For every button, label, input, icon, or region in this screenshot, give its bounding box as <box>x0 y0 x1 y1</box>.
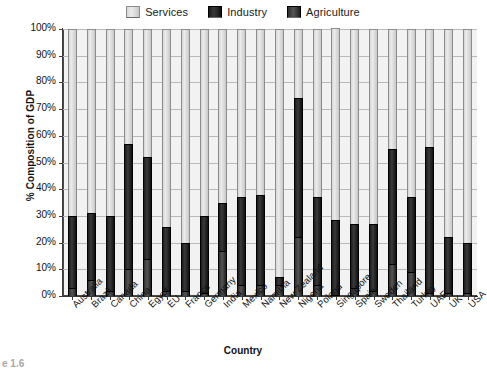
bar-usa[interactable] <box>463 29 472 296</box>
bar-segment-ind <box>388 149 397 264</box>
bar-segment-ind <box>124 144 133 269</box>
industry-swatch-icon <box>208 6 222 18</box>
bar-segment-serv <box>463 29 472 243</box>
bar-segment-serv <box>331 28 340 220</box>
legend-label-services: Services <box>145 6 188 18</box>
y-tick-label: 100% <box>16 22 56 33</box>
y-tick-label: 10% <box>16 262 56 273</box>
y-tick-mark <box>59 163 63 164</box>
bar-poland[interactable] <box>313 29 322 296</box>
bar-turkey[interactable] <box>407 29 416 296</box>
bar-eu[interactable] <box>162 29 171 296</box>
bar-segment-serv <box>87 29 96 213</box>
bar-segment-serv <box>200 29 209 216</box>
chart-legend: Services Industry Agriculture <box>0 2 486 22</box>
bar-segment-serv <box>106 29 115 216</box>
agriculture-swatch-icon <box>287 6 301 18</box>
y-tick-mark <box>59 109 63 110</box>
bar-segment-ind <box>294 98 303 237</box>
bar-segment-serv <box>162 29 171 227</box>
bar-segment-ind <box>87 213 96 280</box>
bar-germany[interactable] <box>200 29 209 296</box>
services-swatch-icon <box>126 6 140 18</box>
plot-area <box>63 29 477 296</box>
bar-china[interactable] <box>124 29 133 296</box>
bar-france[interactable] <box>181 29 190 296</box>
bar-segment-ind <box>143 157 152 258</box>
bar-new-zealand[interactable] <box>275 29 284 296</box>
bar-segment-serv <box>425 29 434 146</box>
bar-egypt[interactable] <box>143 29 152 296</box>
bar-segment-serv <box>313 29 322 197</box>
bar-namibia[interactable] <box>256 29 265 296</box>
bar-segment-ind <box>425 147 434 294</box>
legend-item-industry: Industry <box>208 6 267 18</box>
y-tick-label: 30% <box>16 209 56 220</box>
legend-item-agriculture: Agriculture <box>287 6 360 18</box>
bar-segment-ind <box>218 203 227 251</box>
legend-label-agriculture: Agriculture <box>306 6 360 18</box>
y-tick-label: 50% <box>16 156 56 167</box>
bar-group <box>63 29 477 296</box>
bar-segment-serv <box>143 29 152 157</box>
bar-segment-serv <box>294 29 303 98</box>
bar-singapore[interactable] <box>331 28 340 296</box>
bar-nigeria[interactable] <box>294 29 303 296</box>
bar-segment-serv <box>444 29 453 237</box>
y-tick-mark <box>59 82 63 83</box>
y-tick-label: 70% <box>16 102 56 113</box>
bar-segment-ind <box>237 197 246 285</box>
bar-australia[interactable] <box>68 29 77 296</box>
bar-segment-ind <box>68 216 77 288</box>
legend-label-industry: Industry <box>227 6 267 18</box>
bar-segment-serv <box>68 29 77 216</box>
bar-segment-ind <box>162 227 171 291</box>
bar-segment-serv <box>407 29 416 197</box>
bar-mexico[interactable] <box>237 29 246 296</box>
bar-segment-ind <box>256 195 265 286</box>
bar-canada[interactable] <box>106 29 115 296</box>
bar-segment-serv <box>275 29 284 277</box>
y-tick-mark <box>59 136 63 137</box>
bar-segment-ind <box>407 197 416 272</box>
y-tick-label: 20% <box>16 236 56 247</box>
bar-segment-ind <box>106 216 115 291</box>
bar-segment-ind <box>463 243 472 294</box>
y-tick-mark <box>59 29 63 30</box>
bar-segment-ind <box>181 243 190 291</box>
bar-thailand[interactable] <box>388 29 397 296</box>
bar-segment-serv <box>124 29 133 144</box>
bar-segment-serv <box>350 29 359 224</box>
bar-india[interactable] <box>218 29 227 296</box>
bar-segment-serv <box>237 29 246 197</box>
bar-segment-serv <box>218 29 227 203</box>
bar-segment-serv <box>181 29 190 243</box>
bar-segment-serv <box>256 29 265 195</box>
bar-segment-ind <box>444 237 453 293</box>
bar-sweden[interactable] <box>369 29 378 296</box>
y-tick-label: 90% <box>16 49 56 60</box>
y-tick-label: 60% <box>16 129 56 140</box>
bar-uk[interactable] <box>444 29 453 296</box>
bar-segment-serv <box>388 29 397 149</box>
bar-spain[interactable] <box>350 29 359 296</box>
y-tick-label: 40% <box>16 182 56 193</box>
y-tick-mark <box>59 216 63 217</box>
y-tick-label: 80% <box>16 75 56 86</box>
y-tick-mark <box>59 189 63 190</box>
bar-segment-serv <box>369 29 378 224</box>
figure-caption: e 1.6 <box>2 358 24 369</box>
y-tick-mark <box>59 243 63 244</box>
y-tick-mark <box>59 56 63 57</box>
x-axis-title: Country <box>0 345 486 356</box>
bar-brazil[interactable] <box>87 29 96 296</box>
y-tick-mark <box>59 269 63 270</box>
legend-item-services: Services <box>126 6 188 18</box>
bar-uae[interactable] <box>425 29 434 296</box>
